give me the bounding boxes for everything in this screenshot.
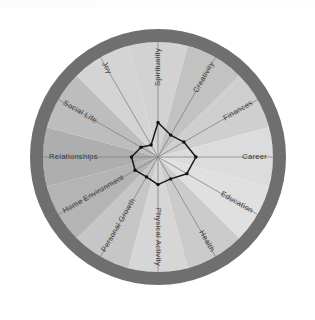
data-point-personal-growth[interactable]: [145, 175, 148, 178]
segment-label-physical-activity: Physical Activity: [154, 208, 163, 266]
data-point-health[interactable]: [169, 177, 172, 180]
segment-label-relationships: Relationships: [49, 152, 98, 161]
data-point-relationships[interactable]: [130, 155, 133, 158]
segment-label-spirituality: Spirituality: [153, 48, 162, 86]
data-point-home-environment[interactable]: [133, 169, 136, 172]
data-point-creativity[interactable]: [169, 133, 172, 136]
data-point-joy[interactable]: [149, 143, 152, 146]
data-point-physical-activity[interactable]: [156, 183, 159, 186]
data-point-social-life[interactable]: [139, 146, 142, 149]
segment-label-career: Career: [242, 152, 267, 161]
data-point-finances[interactable]: [182, 140, 185, 143]
wheel-of-life-chart: SpiritualityCreativityFinancesCareerEduc…: [0, 7, 315, 320]
data-point-spirituality[interactable]: [156, 121, 159, 124]
wheel-of-life-svg: SpiritualityCreativityFinancesCareerEduc…: [0, 7, 315, 320]
data-point-career[interactable]: [194, 155, 197, 158]
data-point-education[interactable]: [185, 172, 188, 175]
